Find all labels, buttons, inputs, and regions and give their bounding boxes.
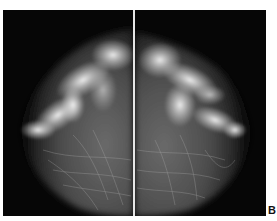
figure-label: B [268,205,276,216]
left-breast-view [3,10,133,216]
left-breast-image [3,10,133,216]
right-breast-image [135,10,266,216]
right-breast-view [135,10,266,216]
mammogram-figure [3,10,266,216]
